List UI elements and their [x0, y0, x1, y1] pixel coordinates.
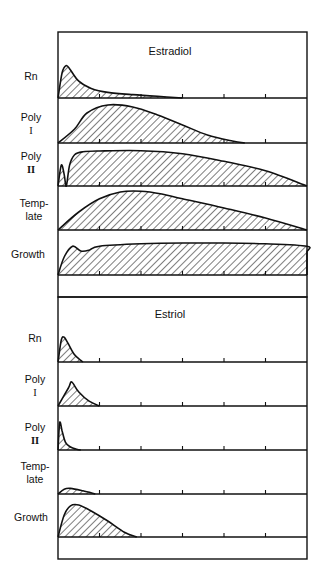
- area-template: [58, 191, 307, 230]
- panel-title-estriol: Estriol: [110, 308, 230, 320]
- row-label-estriol-template: Temp-late: [10, 460, 60, 486]
- row-label-estriol-poly1: PolyI: [10, 373, 60, 399]
- panel-estradiol: [58, 32, 310, 297]
- row-label-estradiol-poly2: PolyII: [6, 150, 56, 176]
- area-growth: [58, 243, 310, 275]
- row-label-estriol-growth: Growth: [6, 511, 56, 524]
- panel-title-estradiol: Estradiol: [110, 45, 230, 57]
- row-label-estradiol-rn: Rn: [6, 70, 56, 83]
- row-label-estriol-rn: Rn: [10, 332, 60, 345]
- figure: [0, 0, 324, 587]
- area-poly-ii: [58, 151, 307, 187]
- row-label-estradiol-poly1: PolyI: [6, 111, 56, 137]
- panels-layer: [58, 32, 310, 559]
- row-label-estriol-poly2: PolyII: [10, 421, 60, 447]
- row-label-estradiol-template: Temp-late: [9, 197, 59, 223]
- panel-estriol: [58, 297, 307, 559]
- row-label-estradiol-growth: Growth: [3, 248, 53, 261]
